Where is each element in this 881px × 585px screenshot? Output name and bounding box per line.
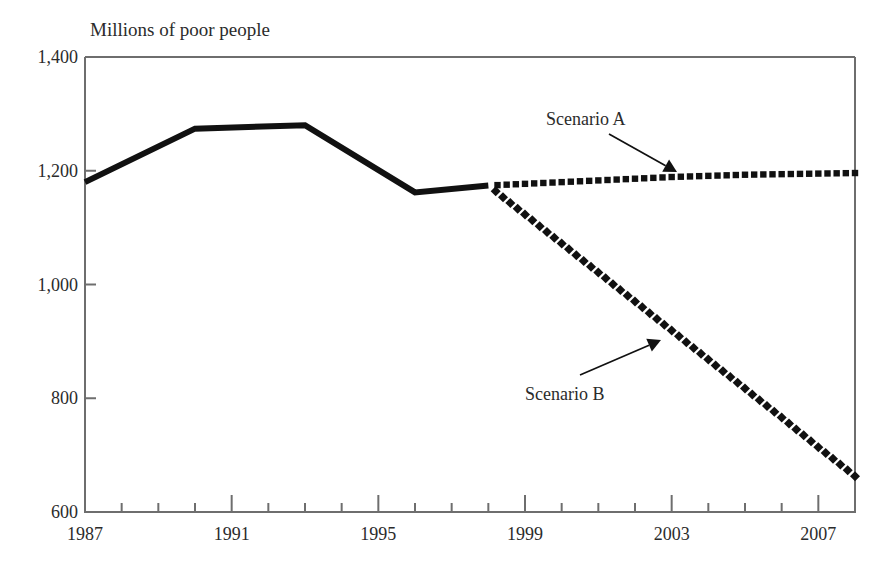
chart-figure: Millions of poor people 1,4001,2001,0008…	[0, 0, 881, 585]
annotation-arrows	[580, 134, 677, 375]
annotation-label-scenario-a: Scenario A	[546, 108, 625, 130]
y-axis-tick-label: 800	[4, 389, 78, 407]
y-axis-tick-label: 600	[4, 503, 78, 521]
axis-lines	[85, 57, 855, 512]
annotation-label-scenario-b: Scenario B	[525, 383, 604, 405]
y-axis-tick-label: 1,200	[4, 162, 78, 180]
y-axis-tick-label: 1,400	[4, 48, 78, 66]
x-axis-tick-label: 2007	[773, 524, 863, 544]
x-axis-tick-label: 1991	[187, 524, 277, 544]
y-axis-ticks	[85, 171, 96, 399]
x-axis-tick-label: 1987	[40, 524, 130, 544]
x-axis-tick-label: 2003	[627, 524, 717, 544]
plot-area	[0, 0, 881, 585]
data-series-group	[85, 125, 860, 481]
x-axis-ticks	[122, 495, 855, 512]
x-axis-tick-label: 1999	[480, 524, 570, 544]
x-axis-tick-label: 1995	[333, 524, 423, 544]
y-axis-tick-label: 1,000	[4, 276, 78, 294]
